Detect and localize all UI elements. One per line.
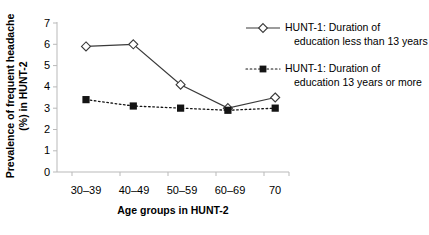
y-tick-label-4: 4 xyxy=(44,80,50,92)
chart-legend: HUNT-1: Duration of education less than … xyxy=(246,21,428,88)
plot-data-layer xyxy=(82,40,280,114)
y-tick-label-3: 3 xyxy=(44,102,50,114)
filled-square-marker-icon xyxy=(260,66,267,73)
data-point-marker-diamond[interactable] xyxy=(271,93,280,102)
legend-label-0-line-1: HUNT-1: Duration of xyxy=(285,21,380,33)
data-point-marker-diamond[interactable] xyxy=(82,42,91,51)
legend-label-1-line-2: education 13 years or more xyxy=(294,76,422,88)
y-axis-title: Prevalence of frequent headache (%) in H… xyxy=(4,14,29,179)
y-tick-label-1: 1 xyxy=(44,144,50,156)
y-tick-label-7: 7 xyxy=(44,17,50,29)
series-1 xyxy=(82,96,278,114)
x-axis-title: Age groups in HUNT-2 xyxy=(117,204,229,216)
legend-item-0[interactable]: HUNT-1: Duration of education less than … xyxy=(246,21,428,47)
y-tick-label-6: 6 xyxy=(44,38,50,50)
x-tick-label-2: 50–59 xyxy=(167,184,198,196)
legend-label-0-line-2: education less than 13 years xyxy=(294,35,428,47)
y-tick-label-0: 0 xyxy=(44,166,50,178)
y-axis-title-line-2: (%) in HUNT-2 xyxy=(17,61,29,131)
y-tick-label-2: 2 xyxy=(44,123,50,135)
line-chart-svg: Prevalence of frequent headache (%) in H… xyxy=(0,0,429,235)
x-tick-label-3: 60–69 xyxy=(215,184,246,196)
data-point-marker-square[interactable] xyxy=(272,105,279,112)
legend-label-1-line-1: HUNT-1: Duration of xyxy=(285,62,380,74)
x-tick-label-1: 40–49 xyxy=(119,184,150,196)
data-point-marker-square[interactable] xyxy=(224,107,231,114)
y-tick-label-5: 5 xyxy=(44,59,50,71)
data-point-marker-square[interactable] xyxy=(130,102,137,109)
legend-item-1[interactable]: HUNT-1: Duration of education 13 years o… xyxy=(246,62,422,88)
x-tick-label-0: 30–39 xyxy=(71,184,102,196)
x-tick-label-4: 70 xyxy=(269,184,281,196)
x-axis-tick-labels: 30–39 40–49 50–59 60–69 70 xyxy=(71,184,281,196)
y-axis-title-line-1: Prevalence of frequent headache xyxy=(4,14,16,179)
series-0 xyxy=(82,40,280,113)
open-diamond-marker-icon xyxy=(259,24,268,33)
data-point-marker-square[interactable] xyxy=(177,105,184,112)
series-0-line xyxy=(86,44,275,108)
data-point-marker-square[interactable] xyxy=(82,96,89,103)
chart-figure: Prevalence of frequent headache (%) in H… xyxy=(0,0,429,235)
y-axis-tick-labels: 7 6 5 4 3 2 1 0 xyxy=(44,17,50,178)
